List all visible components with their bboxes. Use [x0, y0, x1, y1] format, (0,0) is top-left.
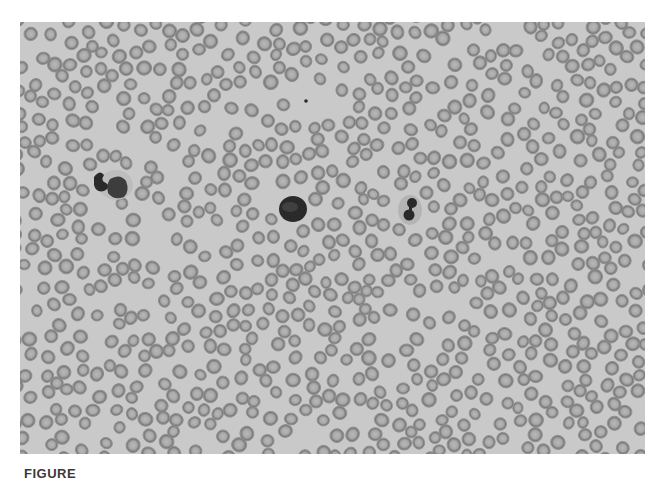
blood-smear-micrograph	[20, 22, 645, 454]
figure-caption: FIGURE	[24, 466, 76, 481]
blood-smear-image	[20, 22, 645, 454]
